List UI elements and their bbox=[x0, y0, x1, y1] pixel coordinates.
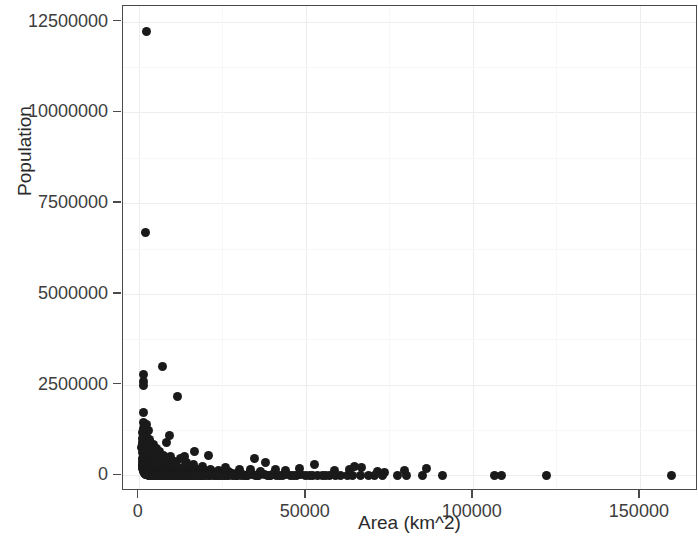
gridline-vertical bbox=[473, 6, 474, 489]
gridline-vertical-minor bbox=[222, 6, 223, 489]
scatter-point bbox=[497, 471, 506, 480]
scatter-point bbox=[250, 454, 259, 463]
gridline-vertical-minor bbox=[556, 6, 557, 489]
scatter-point bbox=[174, 471, 183, 480]
y-tick-label: 0 bbox=[98, 463, 108, 485]
y-tick-label: 12500000 bbox=[28, 10, 108, 32]
scatter-point bbox=[380, 468, 389, 477]
scatter-point bbox=[400, 466, 409, 475]
scatter-point bbox=[310, 460, 319, 469]
scatter-point bbox=[220, 471, 229, 480]
gridline-vertical bbox=[306, 6, 307, 489]
scatter-point bbox=[139, 381, 148, 390]
gridline-horizontal-minor bbox=[123, 249, 696, 250]
y-tick-mark bbox=[113, 20, 121, 22]
gridline-horizontal bbox=[123, 112, 696, 113]
scatter-point bbox=[204, 451, 213, 460]
gridline-vertical-minor bbox=[389, 6, 390, 489]
scatter-point bbox=[295, 464, 304, 473]
x-tick-mark bbox=[137, 490, 139, 498]
y-tick-label: 5000000 bbox=[38, 282, 108, 304]
y-tick-mark bbox=[113, 383, 121, 385]
scatter-point bbox=[139, 408, 148, 417]
scatter-point bbox=[281, 466, 290, 475]
scatter-point bbox=[330, 466, 339, 475]
scatter-point bbox=[190, 447, 199, 456]
gridline-horizontal bbox=[123, 22, 696, 23]
scatter-point bbox=[173, 392, 182, 401]
y-tick-mark bbox=[113, 474, 121, 476]
gridline-horizontal-minor bbox=[123, 158, 696, 159]
y-tick-label: 10000000 bbox=[28, 100, 108, 122]
gridline-horizontal bbox=[123, 385, 696, 386]
scatter-point bbox=[261, 458, 270, 467]
scatter-point bbox=[438, 471, 447, 480]
scatter-point bbox=[256, 467, 265, 476]
gridline-horizontal-minor bbox=[123, 430, 696, 431]
scatter-point bbox=[142, 27, 151, 36]
scatter-point bbox=[141, 228, 150, 237]
scatter-point bbox=[246, 465, 255, 474]
x-tick-mark bbox=[638, 490, 640, 498]
y-tick-label: 2500000 bbox=[38, 373, 108, 395]
y-axis-title: Population bbox=[14, 21, 36, 281]
chart-root: 02500000500000075000001000000012500000 0… bbox=[0, 0, 698, 540]
y-tick-mark bbox=[113, 111, 121, 113]
y-tick-label: 7500000 bbox=[38, 191, 108, 213]
scatter-point bbox=[422, 464, 431, 473]
scatter-point bbox=[542, 471, 551, 480]
scatter-point bbox=[305, 471, 314, 480]
y-tick-mark bbox=[113, 201, 121, 203]
gridline-horizontal-minor bbox=[123, 67, 696, 68]
gridline-vertical bbox=[139, 6, 140, 489]
y-tick-mark bbox=[113, 292, 121, 294]
scatter-point bbox=[158, 362, 167, 371]
gridline-horizontal bbox=[123, 203, 696, 204]
scatter-point bbox=[667, 471, 676, 480]
scatter-point bbox=[364, 471, 373, 480]
scatter-point bbox=[165, 431, 174, 440]
gridline-horizontal-minor bbox=[123, 339, 696, 340]
gridline-horizontal bbox=[123, 294, 696, 295]
x-tick-mark bbox=[304, 490, 306, 498]
x-axis-title: Area (km^2) bbox=[122, 512, 697, 534]
x-tick-mark bbox=[471, 490, 473, 498]
gridline-vertical bbox=[640, 6, 641, 489]
plot-panel bbox=[122, 5, 697, 490]
